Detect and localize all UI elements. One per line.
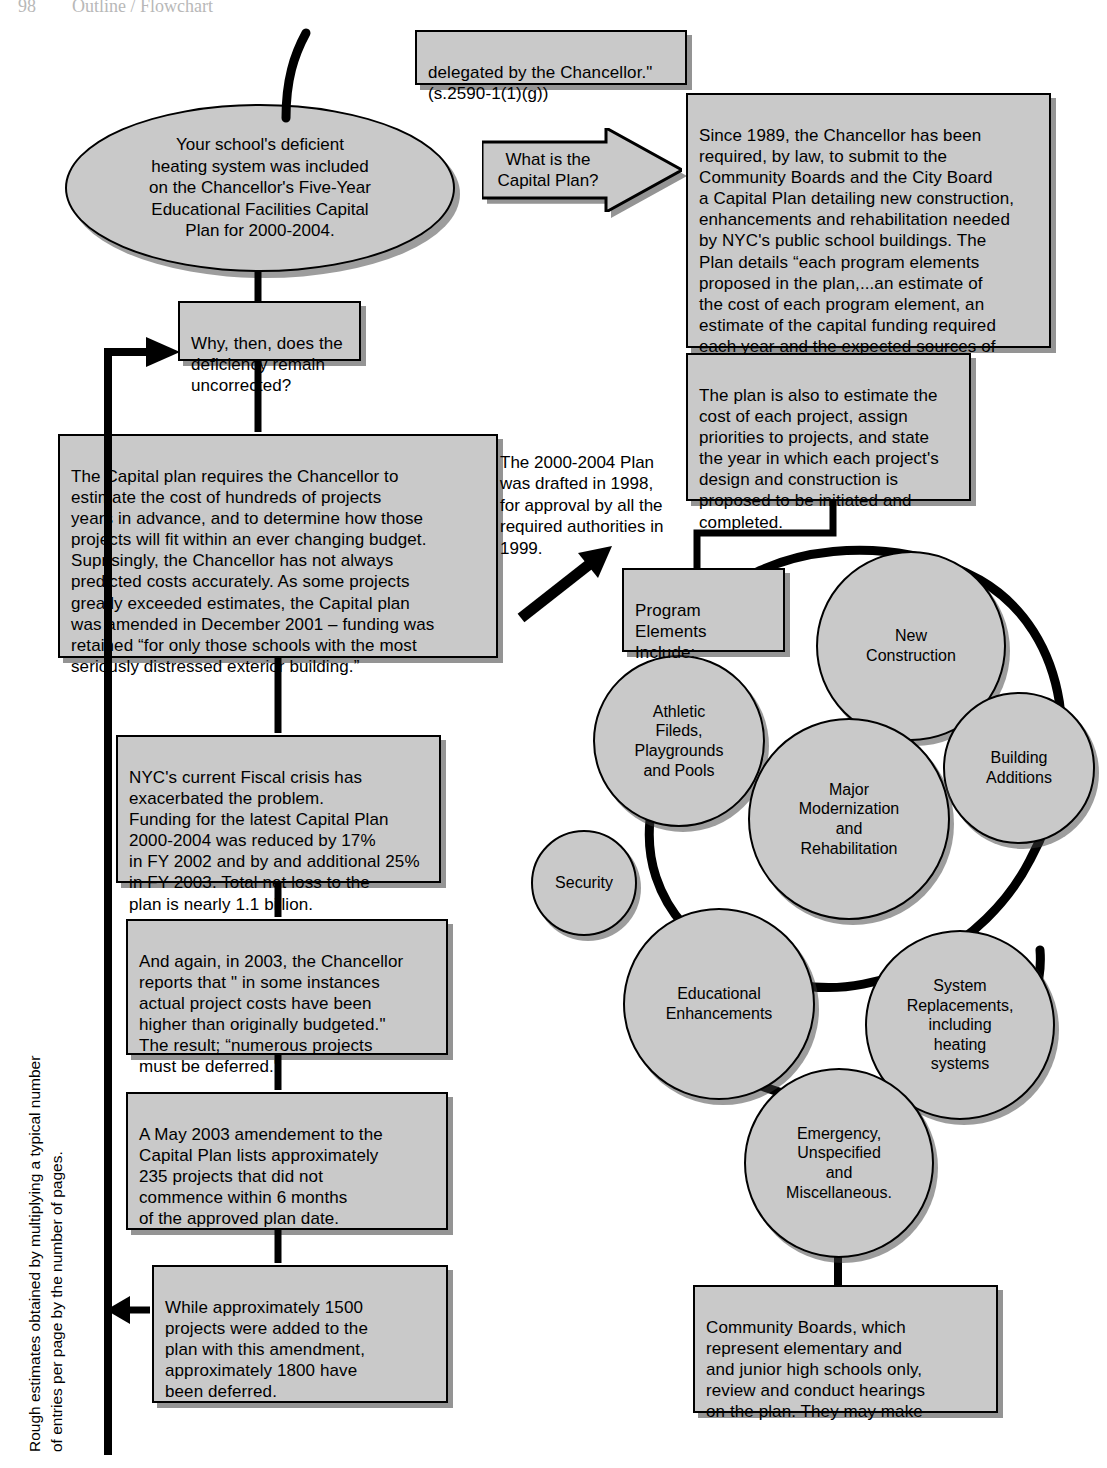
fiscal-crisis-box: NYC's current Fiscal crisis has exacerba… — [116, 735, 441, 883]
circle-building-additions-label: Building Additions — [986, 748, 1052, 787]
plan-estimate-text: The plan is also to estimate the cost of… — [688, 376, 969, 542]
circle-system-replacements-label: System Replacements, including heating s… — [907, 976, 1014, 1074]
again-2003-box: And again, in 2003, the Chancellor repor… — [126, 919, 448, 1055]
capital-plan-definition-box: Since 1989, the Chancellor has been requ… — [686, 93, 1051, 348]
circle-educational-enhancements-label: Educational Enhancements — [666, 984, 773, 1023]
circle-major-modernization: Major Modernization and Rehabilitation — [748, 718, 950, 920]
community-boards-text: Community Boards, which represent elemen… — [695, 1308, 996, 1431]
may-2003-box: A May 2003 amendement to the Capital Pla… — [126, 1092, 448, 1230]
why-text: Why, then, does the deficiency remain un… — [180, 324, 359, 405]
fiscal-crisis-text: NYC's current Fiscal crisis has exacerba… — [118, 758, 439, 924]
requires-box: The Capital plan requires the Chancellor… — [58, 434, 498, 658]
drafted-note: The 2000-2004 Plan was drafted in 1998, … — [500, 452, 690, 559]
circle-building-additions: Building Additions — [943, 692, 1095, 844]
circle-athletic-fields-label: Athletic Fileds, Playgrounds and Pools — [635, 702, 724, 780]
deferred-box: While approximately 1500 projects were a… — [152, 1265, 448, 1403]
capital-plan-definition-text: Since 1989, the Chancellor has been requ… — [688, 116, 1049, 387]
question-arrow-label: What is the Capital Plan? — [492, 149, 604, 192]
flowchart-page: 98 Outline / Flowchart delegated — [0, 0, 1107, 1468]
circle-major-modernization-label: Major Modernization and Rehabilitation — [799, 780, 900, 858]
program-elements-box: Program Elements Include: — [622, 568, 785, 652]
circle-security: Security — [531, 830, 637, 936]
deferred-text: While approximately 1500 projects were a… — [154, 1288, 446, 1411]
start-ellipse-text: Your school's deficient heating system w… — [149, 134, 371, 241]
circle-security-label: Security — [555, 873, 613, 893]
may-2003-text: A May 2003 amendement to the Capital Pla… — [128, 1115, 446, 1238]
circle-emergency-unspecified: Emergency, Unspecified and Miscellaneous… — [744, 1068, 934, 1258]
margin-note: Rough estimates obtained by multiplying … — [24, 1032, 69, 1452]
circle-emergency-unspecified-label: Emergency, Unspecified and Miscellaneous… — [786, 1124, 892, 1202]
circle-new-construction-label: New Construction — [866, 626, 956, 665]
top-quote-box: delegated by the Chancellor." (s.2590-1(… — [415, 30, 687, 85]
question-arrow: What is the Capital Plan? — [482, 128, 682, 212]
community-boards-box: Community Boards, which represent elemen… — [693, 1285, 998, 1413]
start-ellipse: Your school's deficient heating system w… — [65, 104, 455, 272]
why-box: Why, then, does the deficiency remain un… — [178, 301, 361, 361]
plan-estimate-box: The plan is also to estimate the cost of… — [686, 353, 971, 501]
again-2003-text: And again, in 2003, the Chancellor repor… — [128, 942, 446, 1086]
page-header-fragment: 98 Outline / Flowchart — [18, 0, 213, 17]
requires-text: The Capital plan requires the Chancellor… — [60, 457, 496, 686]
program-elements-text: Program Elements Include: — [624, 591, 783, 672]
top-quote-text: delegated by the Chancellor." (s.2590-1(… — [417, 53, 685, 113]
circle-educational-enhancements: Educational Enhancements — [623, 908, 815, 1100]
